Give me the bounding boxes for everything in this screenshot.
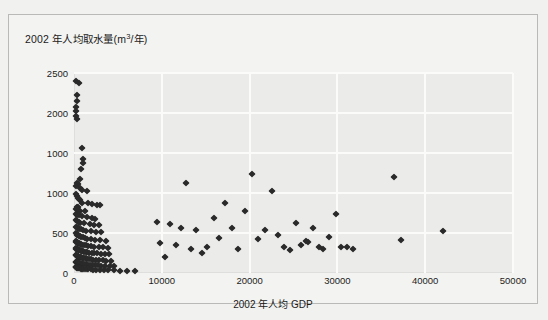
data-point <box>153 218 160 225</box>
gridline-horizontal <box>74 112 513 114</box>
data-point <box>215 234 222 241</box>
data-point <box>178 225 185 232</box>
y-tick-label: 2500 <box>16 68 74 79</box>
x-tick-label: 0 <box>71 275 76 286</box>
data-point <box>132 267 139 274</box>
data-point <box>78 145 85 152</box>
x-tick-label: 10000 <box>149 275 175 286</box>
data-point <box>235 245 242 252</box>
data-point <box>286 246 293 253</box>
data-point <box>102 237 109 244</box>
y-tick-label: 1000 <box>16 148 74 159</box>
data-point <box>116 267 123 274</box>
data-point <box>204 244 211 251</box>
data-point <box>77 165 84 172</box>
data-point <box>397 237 404 244</box>
y-tick-label: 500 <box>16 228 74 239</box>
x-axis: 01000020000300004000050000 <box>74 275 513 291</box>
x-axis-title: 2002 年人均 GDP <box>9 296 537 311</box>
gridline-vertical <box>424 73 426 273</box>
data-point <box>309 225 316 232</box>
y-axis: 05001000100020002500 <box>9 73 74 273</box>
data-point <box>228 225 235 232</box>
chart-title-main: 2002 年人均取水量(m <box>25 33 126 45</box>
y-tick-label: 2000 <box>16 108 74 119</box>
x-tick-label: 40000 <box>412 275 438 286</box>
data-point <box>162 253 169 260</box>
data-point <box>199 249 206 256</box>
data-point <box>210 214 217 221</box>
data-point <box>293 220 300 227</box>
data-point <box>97 202 104 209</box>
data-point <box>326 233 333 240</box>
data-point <box>221 199 228 206</box>
gridline-horizontal <box>74 72 513 74</box>
data-point <box>350 245 357 252</box>
y-tick-label: 1000 <box>16 188 74 199</box>
gridline-horizontal <box>74 192 513 194</box>
data-point <box>166 221 173 228</box>
data-point <box>305 238 312 245</box>
x-tick-label: 30000 <box>324 275 350 286</box>
data-point <box>187 245 194 252</box>
data-point <box>172 241 179 248</box>
data-point <box>106 251 113 258</box>
x-tick-label: 50000 <box>500 275 526 286</box>
y-tick-label: 0 <box>16 268 74 279</box>
data-point <box>123 267 130 274</box>
data-point <box>76 79 83 86</box>
data-point <box>183 180 190 187</box>
data-point <box>98 229 105 236</box>
gridline-horizontal <box>74 232 513 234</box>
x-tick-label: 20000 <box>236 275 262 286</box>
gridline-vertical <box>336 73 338 273</box>
figure-frame: 2002 年人均取水量(m3/年) 05001000100020002500 0… <box>8 14 538 304</box>
gridline-vertical <box>512 73 514 273</box>
chart-title-tail: /年) <box>131 33 148 45</box>
data-point <box>320 245 327 252</box>
gridline-horizontal <box>74 152 513 154</box>
data-point <box>255 236 262 243</box>
data-point <box>96 222 103 229</box>
chart-title: 2002 年人均取水量(m3/年) <box>25 31 148 46</box>
plot-area <box>74 73 513 273</box>
data-point <box>391 173 398 180</box>
data-point <box>249 170 256 177</box>
